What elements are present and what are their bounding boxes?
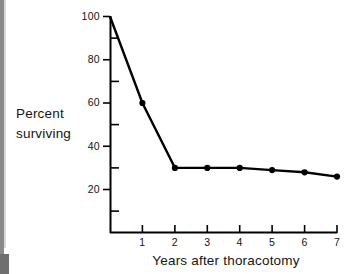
survival-curve (110, 17, 337, 177)
y-tick-label-20: 20 (74, 183, 100, 195)
x-tick-label-7: 7 (330, 236, 344, 248)
y-major-ticks (103, 17, 110, 190)
x-tick-label-6: 6 (298, 236, 312, 248)
x-tick-label-3: 3 (200, 236, 214, 248)
y-tick-label-80: 80 (74, 53, 100, 65)
data-point-year-2 (172, 165, 178, 171)
data-point-year-5 (269, 167, 275, 173)
x-tick-label-1: 1 (135, 236, 149, 248)
data-markers (139, 100, 340, 180)
survival-chart-figure: 100 80 60 40 20 1 2 3 4 5 6 7 Percent su… (0, 0, 353, 274)
data-point-year-1 (139, 100, 145, 106)
y-axis-label-line-2: surviving (16, 124, 102, 144)
x-tick-label-2: 2 (168, 236, 182, 248)
y-tick-label-100: 100 (74, 10, 100, 22)
x-tick-label-5: 5 (265, 236, 279, 248)
data-point-year-7 (334, 174, 340, 180)
y-axis-label: Percent surviving (16, 104, 102, 144)
y-axis-label-line-1: Percent (16, 104, 102, 124)
x-axis-label: Years after thoracotomy (110, 253, 342, 268)
data-point-year-4 (237, 165, 243, 171)
data-point-year-6 (302, 169, 308, 175)
data-point-year-3 (204, 165, 210, 171)
x-tick-label-4: 4 (233, 236, 247, 248)
